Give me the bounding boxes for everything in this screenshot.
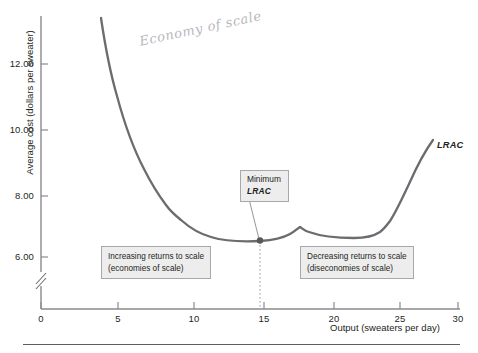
- lrac-curve-label: LRAC: [437, 140, 463, 150]
- note-line-2: (economies of scale): [108, 263, 204, 275]
- ytick-label-6: 6.00: [0, 251, 34, 262]
- callout-line-1: Minimum: [247, 174, 281, 186]
- xtick-label-0: 0: [28, 313, 54, 324]
- bottom-divider: [23, 344, 460, 345]
- increasing-returns-note: Increasing returns to scale (economies o…: [101, 246, 211, 279]
- callout-leader-line: [249, 199, 259, 239]
- lrac-figure: 12.00 10.00 8.00 6.00 0 5 10 15 20 25 30…: [0, 0, 478, 353]
- callout-line-2: LRAC: [247, 186, 281, 198]
- xtick-label-10: 10: [181, 313, 207, 324]
- note-line-1: Increasing returns to scale: [108, 251, 204, 263]
- xtick-label-30: 30: [445, 313, 471, 324]
- minimum-lrac-callout: Minimum LRAC: [240, 170, 289, 202]
- minimum-point-marker: [257, 237, 263, 243]
- chart-canvas: [0, 0, 478, 353]
- xtick-label-5: 5: [105, 313, 131, 324]
- note-line-1: Decreasing returns to scale: [307, 251, 407, 263]
- y-axis-title: Average cost (dollars per sweater): [24, 13, 35, 193]
- note-line-2: (diseconomies of scale): [307, 263, 407, 275]
- xtick-label-15: 15: [251, 313, 277, 324]
- decreasing-returns-note: Decreasing returns to scale (diseconomie…: [300, 246, 414, 279]
- lrac-curve: [101, 18, 433, 241]
- axis-break-mark: [36, 273, 46, 284]
- x-axis-title: Output (sweaters per day): [330, 322, 440, 333]
